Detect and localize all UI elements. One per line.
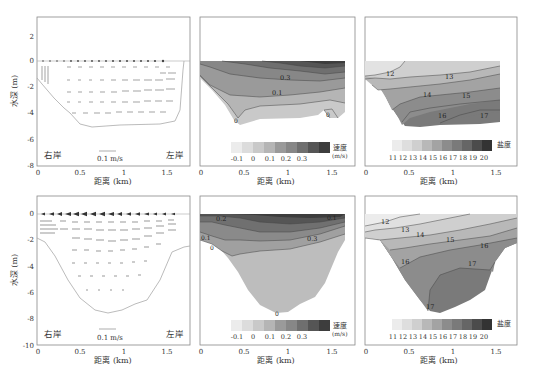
contour-label: 17 — [480, 112, 488, 120]
bank-right-label: 右岸 — [44, 329, 62, 339]
bank-right-label: 右岸 — [44, 150, 62, 160]
svg-text:20: 20 — [480, 154, 488, 162]
reference-vector-label: 0.1 m/s — [97, 334, 123, 342]
svg-text:19: 19 — [469, 154, 477, 162]
svg-text:18: 18 — [459, 333, 467, 341]
contour-label: 0 — [326, 111, 330, 118]
panel-row2-quiver: 右岸 左岸 0.1 m/s 0-2-4-6-8-10 水深 (m) 00.511… — [9, 196, 190, 365]
svg-text:0.1: 0.1 — [265, 155, 275, 163]
colorbar-unit: (m/s) — [332, 152, 347, 159]
svg-text:0.2: 0.2 — [281, 333, 291, 341]
svg-text:0.5: 0.5 — [74, 169, 85, 177]
svg-text:17: 17 — [449, 333, 457, 341]
svg-text:0: 0 — [251, 333, 255, 341]
x-axis-label: 距离 (km) — [420, 176, 457, 186]
bank-left-label: 左岸 — [166, 150, 184, 160]
contour-label: 0 — [275, 310, 279, 317]
x-axis-label: 距离 (km) — [420, 355, 457, 365]
contour-label: 17 — [468, 260, 476, 268]
contour-label: 0.2 — [216, 215, 226, 223]
contour-label: 14 — [423, 91, 431, 99]
svg-text:2: 2 — [30, 33, 34, 41]
svg-text:0.1: 0.1 — [265, 333, 275, 341]
svg-text:12: 12 — [399, 154, 407, 162]
svg-text:0.5: 0.5 — [403, 348, 414, 356]
contour-label: 0.3 — [307, 235, 317, 243]
svg-text:1: 1 — [122, 169, 126, 177]
svg-text:0: 0 — [251, 155, 255, 163]
svg-text:1: 1 — [286, 169, 290, 177]
svg-text:-2: -2 — [27, 83, 34, 91]
svg-text:0.3: 0.3 — [297, 155, 307, 163]
svg-text:0.5: 0.5 — [238, 169, 249, 177]
svg-text:15: 15 — [429, 154, 437, 162]
svg-text:1: 1 — [286, 348, 290, 356]
svg-text:1.5: 1.5 — [161, 169, 172, 177]
colorbar-title: 盐度 — [497, 140, 511, 149]
reference-vector-label: 0.1 m/s — [97, 155, 123, 163]
svg-text:0.5: 0.5 — [74, 348, 85, 356]
svg-text:16: 16 — [439, 154, 447, 162]
contour-label: 16 — [480, 242, 488, 250]
contour-label: 13 — [401, 226, 409, 234]
svg-text:0: 0 — [30, 57, 34, 65]
contour-label: 12 — [386, 70, 394, 78]
colorbar-title: 速度 — [333, 143, 347, 152]
contour-label: 0 — [210, 244, 214, 251]
contour-label: 16 — [438, 112, 446, 120]
svg-text:11: 11 — [389, 333, 397, 341]
contour-label: 12 — [381, 218, 389, 226]
svg-text:-0.1: -0.1 — [231, 155, 244, 163]
panel-row2-salinity: 12 13 14 15 16 16 17 17 11 12 13 14 15 1… — [364, 196, 517, 365]
svg-text:0.2: 0.2 — [281, 155, 291, 163]
x-axis-label: 距离 (km) — [257, 176, 294, 186]
svg-text:14: 14 — [419, 333, 427, 341]
svg-text:20: 20 — [480, 333, 488, 341]
x-axis-label: 距离 (km) — [257, 355, 294, 365]
contour-label: 15 — [462, 92, 470, 100]
svg-text:17: 17 — [449, 154, 457, 162]
svg-text:1.5: 1.5 — [326, 348, 337, 356]
contour-label: 13 — [445, 73, 453, 81]
svg-text:1: 1 — [451, 169, 455, 177]
svg-text:14: 14 — [419, 154, 427, 162]
svg-text:1.5: 1.5 — [326, 169, 337, 177]
svg-text:-8: -8 — [27, 162, 34, 170]
y-axis-label: 水深 (m) — [9, 75, 19, 107]
svg-text:1.5: 1.5 — [161, 348, 172, 356]
svg-text:-0.1: -0.1 — [231, 333, 244, 341]
svg-text:0: 0 — [199, 169, 203, 177]
svg-text:-8: -8 — [27, 315, 34, 323]
contour-label: 14 — [416, 231, 424, 239]
svg-text:18: 18 — [459, 154, 467, 162]
contour-label: 16 — [401, 258, 409, 266]
svg-text:-4: -4 — [27, 263, 34, 271]
bank-left-label: 左岸 — [166, 329, 184, 339]
x-axis-label: 距离 (km) — [94, 176, 131, 186]
svg-text:-10: -10 — [23, 342, 34, 350]
svg-text:0.5: 0.5 — [403, 169, 414, 177]
svg-text:0: 0 — [364, 169, 368, 177]
panel-row1-quiver: 右岸 左岸 0.1 m/s 20-2-4-6-8 水深 (m) 00.511.5… — [9, 17, 190, 186]
svg-text:0: 0 — [364, 348, 368, 356]
contour-label: 0.1 — [272, 89, 282, 97]
colorbar-unit: (m/s) — [332, 330, 347, 337]
contour-label: 17 — [426, 303, 434, 311]
svg-text:0: 0 — [30, 210, 34, 218]
svg-text:-6: -6 — [27, 289, 34, 297]
svg-text:13: 13 — [409, 154, 417, 162]
svg-text:1: 1 — [451, 348, 455, 356]
svg-text:0: 0 — [36, 169, 40, 177]
svg-text:13: 13 — [409, 333, 417, 341]
contour-label: 0 — [234, 117, 238, 124]
figure: 右岸 左岸 0.1 m/s 20-2-4-6-8 水深 (m) 00.511.5… — [0, 0, 534, 379]
panel-row1-velocity: 0.3 0.1 0 0 -0.1 0 0.1 0.2 0.3 速度 (m/s) … — [199, 17, 355, 186]
panel-row2-velocity: 0.2 0.1 0 0.3 0.1 0 -0.1 0 0.1 0.2 0.3 速… — [199, 196, 355, 365]
colorbar-title: 速度 — [333, 321, 347, 330]
contour-label: 0.1 — [327, 214, 337, 221]
svg-text:-4: -4 — [27, 109, 34, 117]
svg-text:0.5: 0.5 — [238, 348, 249, 356]
y-axis-label: 水深 (m) — [9, 254, 19, 286]
svg-text:-2: -2 — [27, 236, 34, 244]
contour-label: 15 — [446, 236, 454, 244]
